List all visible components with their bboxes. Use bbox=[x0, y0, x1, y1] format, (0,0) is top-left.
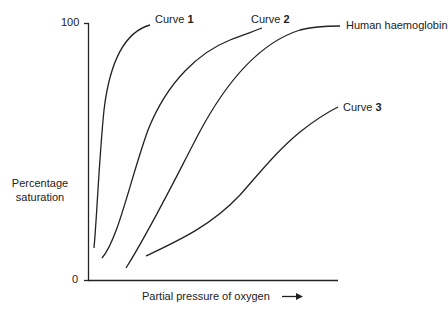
y-axis-title: Percentage saturation bbox=[0, 176, 80, 204]
curve-human-haemoglobin bbox=[126, 26, 340, 268]
curve-3-label-num: 3 bbox=[375, 101, 381, 113]
curve-2 bbox=[102, 28, 262, 258]
curve-2-label: Curve 2 bbox=[251, 13, 290, 25]
curve-3 bbox=[146, 107, 338, 256]
curve-2-label-num: 2 bbox=[283, 13, 289, 25]
curve-3-label-prefix: Curve bbox=[343, 101, 375, 113]
curve-2-label-prefix: Curve bbox=[251, 13, 283, 25]
curve-1-label: Curve 1 bbox=[155, 13, 194, 25]
curve-3-label: Curve 3 bbox=[343, 101, 382, 113]
y-axis-title-line2: saturation bbox=[0, 190, 80, 204]
human-haemoglobin-label: Human haemoglobin bbox=[346, 19, 448, 31]
y-axis-title-line1: Percentage bbox=[0, 176, 80, 190]
x-axis-title: Partial pressure of oxygen bbox=[142, 290, 270, 302]
curve-1-label-num: 1 bbox=[187, 13, 193, 25]
y-tick-label-0: 0 bbox=[72, 273, 78, 285]
curve-1-label-prefix: Curve bbox=[155, 13, 187, 25]
y-tick-label-100: 100 bbox=[61, 16, 79, 28]
x-arrow-head-icon bbox=[296, 293, 303, 300]
